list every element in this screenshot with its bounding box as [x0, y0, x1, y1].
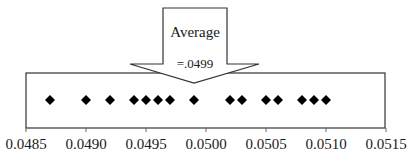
- x-tick-label: 0.0510: [296, 136, 356, 153]
- average-value-label: =.0499: [163, 56, 227, 72]
- diamond-marker: [153, 95, 163, 105]
- diamond-marker: [321, 95, 331, 105]
- diamond-marker: [141, 95, 151, 105]
- diamond-marker: [45, 95, 55, 105]
- diamond-marker: [105, 95, 115, 105]
- x-tick-label: 0.0515: [356, 136, 416, 153]
- diamond-marker: [165, 95, 175, 105]
- diamond-marker: [129, 95, 139, 105]
- diamond-marker: [237, 95, 247, 105]
- diamond-marker: [189, 95, 199, 105]
- diamond-marker: [81, 95, 91, 105]
- diamond-marker: [225, 95, 235, 105]
- average-label: Average: [163, 24, 227, 41]
- diamond-marker: [261, 95, 271, 105]
- plot-frame: [26, 73, 385, 128]
- x-tick-label: 0.0505: [236, 136, 296, 153]
- x-tick-label: 0.0500: [176, 136, 236, 153]
- diamond-marker: [297, 95, 307, 105]
- x-axis-ticks: [26, 128, 386, 132]
- diamond-marker: [273, 95, 283, 105]
- x-tick-label: 0.0495: [116, 136, 176, 153]
- x-tick-label: 0.0490: [56, 136, 116, 153]
- diamond-marker: [309, 95, 319, 105]
- data-points: [45, 95, 331, 105]
- x-tick-label: 0.0485: [0, 136, 56, 153]
- plot-area: [26, 73, 385, 128]
